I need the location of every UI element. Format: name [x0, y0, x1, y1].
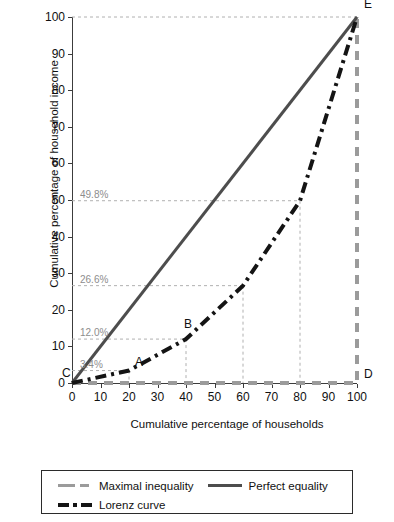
- x-tick-10: [101, 384, 102, 388]
- y-tick-label-90: 90: [52, 48, 65, 60]
- x-tick-label-60: 60: [236, 391, 249, 403]
- legend-key-perfect-equality: [208, 480, 242, 491]
- y-tick-label-100: 100: [45, 11, 65, 23]
- x-tick-50: [215, 384, 216, 388]
- x-tick-label-30: 30: [151, 391, 164, 403]
- y-tick-label-70: 70: [52, 121, 65, 133]
- x-tick-label-90: 90: [322, 391, 335, 403]
- x-tick-label-70: 70: [265, 391, 278, 403]
- y-tick-label-60: 60: [52, 157, 65, 169]
- x-tick-label-50: 50: [208, 391, 221, 403]
- point-label-E: E: [364, 0, 372, 11]
- legend-row-1: Maximal inequality Perfect equality: [58, 476, 352, 495]
- x-tick-60: [243, 384, 244, 388]
- y-tick-label-50: 50: [52, 194, 65, 206]
- legend-key-lorenz-curve: [58, 499, 92, 510]
- legend-label-perfect-equality: Perfect equality: [249, 480, 328, 492]
- y-tick-label-30: 30: [52, 267, 65, 279]
- x-axis-title: Cumulative percentage of households: [62, 418, 392, 430]
- point-label-A: A: [135, 355, 143, 369]
- x-tick-label-0: 0: [69, 391, 76, 403]
- point-label-D: D: [364, 367, 373, 381]
- y-tick-label-20: 20: [52, 304, 65, 316]
- chart-root: Cumulative percentage of household incom…: [0, 0, 394, 522]
- legend-label-maximal-inequality: Maximal inequality: [99, 480, 194, 492]
- series-perfect-equality: [72, 17, 357, 383]
- x-tick-100: [357, 384, 358, 388]
- x-tick-label-40: 40: [179, 391, 192, 403]
- x-tick-label-100: 100: [347, 391, 367, 403]
- point-label-B: B: [184, 317, 192, 331]
- legend-key-maximal-inequality: [58, 480, 92, 491]
- point-label-C: C: [62, 366, 71, 380]
- annotation-pct-26-6: 26.6%: [80, 274, 108, 285]
- x-tick-label-10: 10: [94, 391, 107, 403]
- x-tick-label-20: 20: [122, 391, 135, 403]
- x-tick-label-80: 80: [293, 391, 306, 403]
- legend-item-perfect-equality[interactable]: Perfect equality: [208, 480, 328, 492]
- legend-item-lorenz-curve[interactable]: Lorenz curve: [58, 499, 165, 511]
- y-tick-label-10: 10: [52, 340, 65, 352]
- y-tick-label-80: 80: [52, 84, 65, 96]
- legend-box: Maximal inequality Perfect equality Lore…: [41, 470, 353, 514]
- annotation-pct-3-4: 3.4%: [80, 359, 103, 370]
- series-lines: [72, 17, 357, 383]
- legend-row-2: Lorenz curve: [58, 495, 352, 514]
- legend-item-maximal-inequality[interactable]: Maximal inequality: [58, 480, 194, 492]
- annotation-pct-12-0: 12.0%: [80, 327, 108, 338]
- legend-label-lorenz-curve: Lorenz curve: [99, 499, 165, 511]
- y-tick-label-40: 40: [52, 231, 65, 243]
- plot-area: 0102030405060708090100010203040506070809…: [72, 17, 357, 383]
- x-tick-20: [129, 384, 130, 388]
- annotation-pct-49-8: 49.8%: [80, 189, 108, 200]
